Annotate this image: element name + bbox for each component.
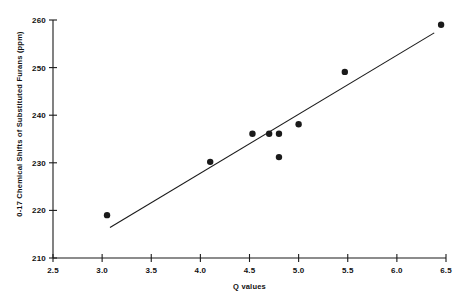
x-tick-label: 3.5	[145, 266, 157, 275]
y-axis-title: 0-17 Chemical Shifts of Substituted Fura…	[14, 0, 252, 258]
x-tick-label: 6.0	[391, 266, 403, 275]
x-tick-label: 6.5	[440, 266, 452, 275]
data-point	[295, 121, 301, 127]
scatter-chart-figure: 210220230240250260 2.53.03.54.04.55.05.5…	[0, 0, 461, 298]
x-tick-label: 3.0	[96, 266, 108, 275]
x-tick-label: 4.0	[195, 266, 207, 275]
x-tick-label: 5.5	[342, 266, 354, 275]
data-point	[438, 22, 444, 28]
x-tick-label: 5.0	[293, 266, 305, 275]
data-point	[342, 69, 348, 75]
x-tick-label: 2.5	[47, 266, 59, 275]
x-axis-title: Q values	[233, 282, 266, 291]
data-point	[276, 154, 282, 160]
data-point	[266, 131, 272, 137]
data-point	[276, 131, 282, 137]
x-tick-label: 4.5	[244, 266, 256, 275]
